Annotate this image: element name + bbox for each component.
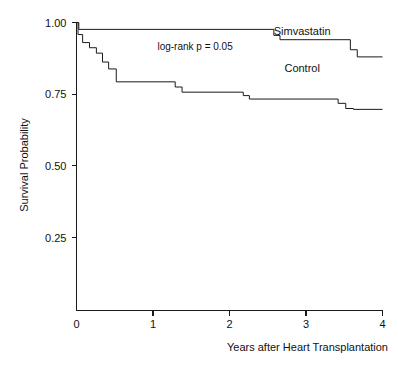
tick-marks-group [72,23,383,316]
survival-curve-control [77,23,383,110]
x-axis-title: Years after Heart Transplantation [227,341,388,353]
annotation-log-rank-p: log-rank p = 0.05 [157,41,233,52]
kaplan-meier-chart: 0.250.500.751.0001234 SimvastatinControl… [0,0,398,372]
x-tick-label: 4 [379,318,385,330]
series-label-simvastatin: Simvastatin [274,25,331,37]
y-tick-label: 0.50 [45,160,66,172]
series-labels-group: SimvastatinControl [274,25,331,73]
y-tick-label: 0.75 [45,88,66,100]
y-tick-label: 0.25 [45,232,66,244]
x-tick-label: 3 [303,318,309,330]
curves-group [77,23,383,110]
x-tick-label: 1 [150,318,156,330]
y-axis-title: Survival Probability [18,118,30,212]
axes-group [77,23,383,311]
x-tick-label: 0 [73,318,79,330]
y-tick-label: 1.00 [45,17,66,29]
series-label-control: Control [284,62,319,74]
survival-plot-figure: 0.250.500.751.0001234 SimvastatinControl… [0,0,398,372]
x-tick-label: 2 [226,318,232,330]
annotations-group: log-rank p = 0.05 [157,41,233,52]
survival-curve-simvastatin [77,23,383,57]
tick-labels-group: 0.250.500.751.0001234 [45,17,385,330]
